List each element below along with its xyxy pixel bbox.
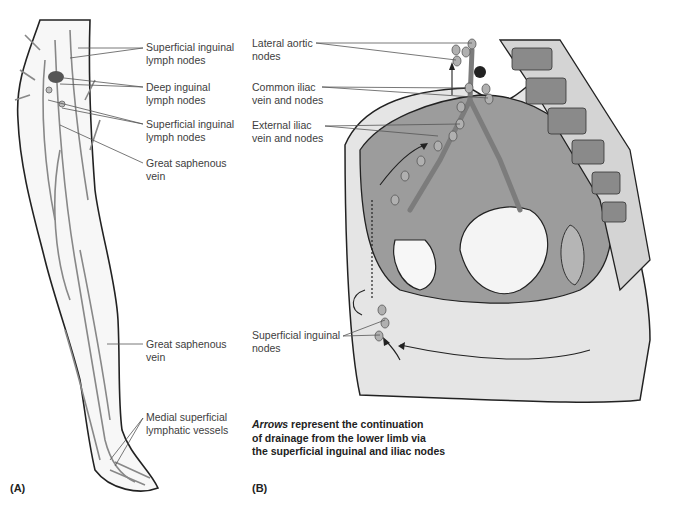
label-medial-superficial-lymphatic-vessels: Medial superficial lymphatic vessels <box>146 411 228 437</box>
caption-emphasis: Arrows <box>252 418 288 430</box>
label-external-iliac-vein-and-nodes: External iliac vein and nodes <box>252 119 323 145</box>
label-superficial-inguinal-lymph-nodes-upper: Superficial inguinal lymph nodes <box>146 41 234 67</box>
figure-caption: Arrows represent the continuation of dra… <box>252 418 445 459</box>
caption-line-3: the superficial inguinal and iliac nodes <box>252 445 445 459</box>
caption-line-1: represent the continuation <box>288 418 423 430</box>
label-great-saphenous-vein-lower: Great saphenous vein <box>146 338 227 364</box>
caption-line-2: of drainage from the lower limb via <box>252 432 445 446</box>
panel-b-tag: (B) <box>252 482 267 494</box>
label-superficial-inguinal-lymph-nodes-lower: Superficial inguinal lymph nodes <box>146 118 234 144</box>
label-great-saphenous-vein-upper: Great saphenous vein <box>146 157 227 183</box>
label-lateral-aortic-nodes: Lateral aortic nodes <box>252 37 313 63</box>
label-common-iliac-vein-and-nodes: Common iliac vein and nodes <box>252 81 323 107</box>
label-superficial-inguinal-nodes: Superficial inguinal nodes <box>252 329 340 355</box>
pelvis-illustration <box>345 39 650 402</box>
label-deep-inguinal-lymph-nodes: Deep inguinal lymph nodes <box>146 81 210 107</box>
panel-a-tag: (A) <box>10 482 25 494</box>
leg-illustration <box>15 20 158 491</box>
